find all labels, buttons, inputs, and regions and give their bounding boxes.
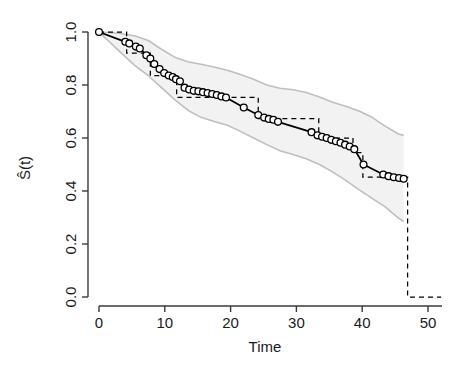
data-point-marker <box>96 29 103 36</box>
y-axis-tick-label: 0.2 <box>62 234 79 255</box>
x-axis-tick-label: 0 <box>95 314 103 331</box>
y-axis-title: Ŝ(t) <box>16 156 33 180</box>
y-axis-tick-label: 0.0 <box>62 287 79 308</box>
x-axis-tick-label: 20 <box>222 314 239 331</box>
x-axis-title: Time <box>249 338 282 355</box>
data-point-marker <box>351 146 358 153</box>
y-axis-tick-label: 1.0 <box>62 22 79 43</box>
x-axis-tick-label: 40 <box>354 314 371 331</box>
data-point-marker <box>126 40 133 47</box>
data-point-marker <box>400 175 407 182</box>
data-point-marker <box>136 45 143 52</box>
data-point-marker <box>360 161 367 168</box>
survival-plot-svg: 0.00.20.40.60.81.0 01020304050 Time Ŝ(t… <box>0 0 467 368</box>
data-point-marker <box>177 78 184 85</box>
x-axis-tick-label: 50 <box>420 314 437 331</box>
data-point-marker <box>223 94 230 101</box>
x-axis-tick-label: 30 <box>288 314 305 331</box>
survival-plot-container: 0.00.20.40.60.81.0 01020304050 Time Ŝ(t… <box>0 0 467 368</box>
y-axis-tick-label: 0.4 <box>62 181 79 202</box>
data-point-marker <box>240 104 247 111</box>
y-axis-tick-label: 0.8 <box>62 75 79 96</box>
data-point-marker <box>275 118 282 125</box>
x-axis-tick-label: 10 <box>156 314 173 331</box>
y-axis-tick-label: 0.6 <box>62 128 79 149</box>
